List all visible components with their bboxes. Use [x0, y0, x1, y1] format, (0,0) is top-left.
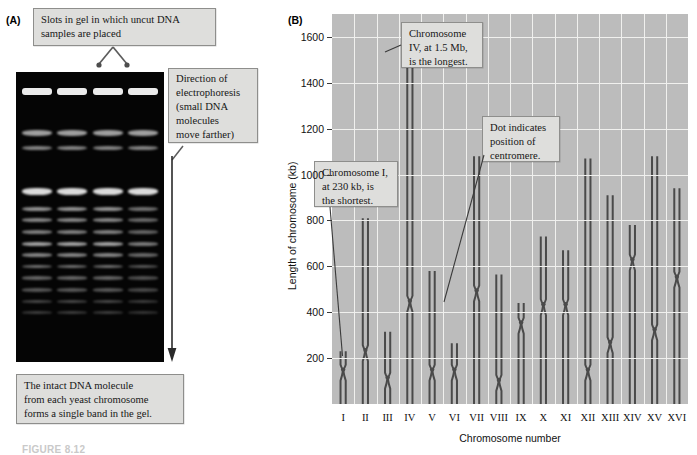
x-axis-tick-label: VIII [490, 412, 508, 423]
panel-b-chart: (B) Length of chromosome (kb) Chromosome… [272, 0, 697, 455]
y-axis-tick-mark [327, 129, 332, 130]
y-axis-tick-mark [327, 266, 332, 267]
figure-caption: FIGURE 8.12 [22, 444, 85, 455]
x-axis-tick-label: XII [581, 412, 596, 423]
x-axis-tick-label: V [428, 412, 436, 423]
x-axis-tick-label: XVI [668, 412, 687, 423]
x-axis-tick-label: VII [469, 412, 484, 423]
x-axis-tick-label: XV [647, 412, 662, 423]
x-axis-tick-label: XIII [601, 412, 619, 423]
y-axis-tick-label: 600 [284, 260, 324, 272]
y-axis-tick-mark [327, 312, 332, 313]
y-axis-tick-label: 400 [284, 306, 324, 318]
panel-b-annotation-lines [272, 0, 697, 455]
x-axis-tick-label: II [362, 412, 369, 423]
x-axis-tick-label: XIV [623, 412, 642, 423]
x-axis-tick-label: I [341, 412, 345, 423]
callout-line-3: forms a single band in the gel. [24, 407, 177, 421]
y-axis-tick-mark [327, 220, 332, 221]
x-axis-tick-label: XI [560, 412, 571, 423]
x-axis-tick-label: IV [404, 412, 415, 423]
y-axis-tick-label: 1000 [284, 169, 324, 181]
callout-line-2: from each yeast chromosome [24, 393, 177, 407]
y-axis-tick-mark [327, 83, 332, 84]
y-axis-tick-label: 1600 [284, 31, 324, 43]
y-axis-tick-label: 200 [284, 352, 324, 364]
callout-line-1: The intact DNA molecule [24, 379, 177, 393]
x-axis-tick-label: IX [516, 412, 527, 423]
x-axis-tick-label: III [382, 412, 393, 423]
y-axis-tick-label: 1200 [284, 123, 324, 135]
callout-intact-dna-molecule: The intact DNA molecule from each yeast … [16, 374, 184, 424]
y-axis-tick-mark [327, 175, 332, 176]
y-axis-tick-label: 800 [284, 214, 324, 226]
x-axis-tick-label: X [540, 412, 548, 423]
y-axis-tick-mark [327, 37, 332, 38]
y-axis-tick-label: 1400 [284, 77, 324, 89]
x-axis-tick-label: VI [449, 412, 460, 423]
panel-a-gel: (A) Slots in gel in which uncut DNA samp… [0, 0, 270, 455]
y-axis-tick-mark [327, 358, 332, 359]
